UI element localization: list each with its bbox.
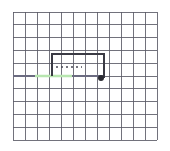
- dot-marker: [98, 75, 104, 81]
- diagram-canvas: [0, 0, 170, 151]
- grid-diagram: [0, 0, 170, 151]
- endpoint-dot-marker: [98, 75, 104, 81]
